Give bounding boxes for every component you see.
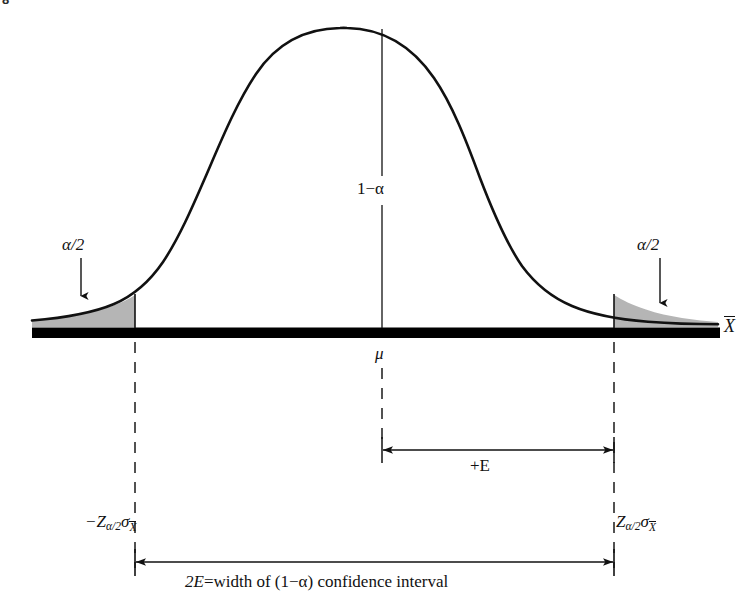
interval-caption-text: =width of (1−α) confidence interval bbox=[204, 572, 448, 591]
lower-bound-prefix: −Z bbox=[85, 512, 106, 531]
lower-bound-sigma-subscript: X bbox=[129, 521, 136, 534]
lower-bound-subscript: α/2 bbox=[106, 520, 121, 533]
normal-distribution-curve bbox=[32, 28, 718, 324]
lower-bound-label: −Zα/2σX bbox=[85, 513, 136, 534]
left-tail-shaded-region bbox=[32, 295, 135, 327]
confidence-level-label: 1−α bbox=[357, 180, 384, 197]
population-mean-label: μ bbox=[375, 345, 384, 362]
x-axis-label-text: X bbox=[724, 316, 735, 336]
upper-bound-subscript: α/2 bbox=[625, 520, 640, 533]
baseline-axis-bar bbox=[32, 328, 720, 339]
confidence-interval-figure: 8 α/2 α/2 1−α μ X +E −Zα/2σX Zα/2σX 2E=w… bbox=[0, 0, 752, 615]
upper-bound-label: Zα/2σX bbox=[616, 513, 656, 534]
right-tail-alpha-label: α/2 bbox=[637, 236, 659, 253]
page-number-clip: 8 bbox=[2, 0, 9, 6]
interval-caption-lead: 2E bbox=[185, 572, 204, 591]
interval-width-caption: 2E=width of (1−α) confidence interval bbox=[185, 573, 448, 590]
upper-bound-sigma: σ bbox=[641, 512, 649, 531]
x-axis-label: X bbox=[724, 316, 735, 336]
upper-bound-sigma-subscript: X bbox=[649, 521, 656, 534]
margin-of-error-label: +E bbox=[470, 457, 490, 474]
left-tail-alpha-label: α/2 bbox=[62, 236, 84, 253]
